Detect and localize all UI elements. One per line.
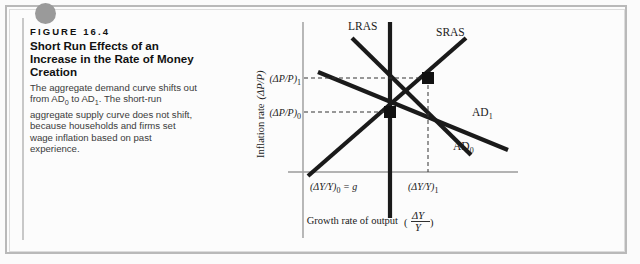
equilibrium-point-short-run	[422, 72, 434, 84]
curve-ad0	[352, 38, 471, 155]
y-tick-0-main: (ΔP/P)	[269, 107, 297, 119]
y-axis-title-text: Inflation rate	[255, 103, 266, 158]
x-tick-1-main: (ΔY/Y)	[408, 181, 435, 193]
y-tick-0-sub: 0	[297, 112, 301, 121]
x-tick-0-suffix: = g	[340, 181, 357, 192]
ad-as-diagram: LRAS SRAS AD1 AD0 (ΔP/P)1 (ΔP/P)0 (ΔY/Y)…	[240, 8, 620, 256]
label-sras: SRAS	[436, 26, 465, 38]
x-axis-title: Growth rate of output	[307, 215, 398, 226]
decorative-circle-icon	[35, 3, 56, 24]
x-axis-title-fraction: ( ΔY Y )	[404, 210, 434, 233]
y-tick-1-sub: 1	[297, 78, 301, 87]
fraction-paren-close: )	[430, 217, 434, 229]
fraction-numerator: ΔY	[411, 210, 425, 221]
description-part-2: to AD	[69, 93, 95, 104]
label-ad0-main: AD	[453, 140, 470, 152]
figure-title: Short Run Effects of an Increase in the …	[30, 39, 198, 79]
x-tick-0-main: (ΔY/Y)	[310, 181, 337, 193]
figure-caption: FIGURE 16.4 Short Run Effects of an Incr…	[30, 26, 198, 155]
fraction-denominator: Y	[415, 222, 422, 233]
figure-description: The aggregate demand curve shifts out fr…	[30, 82, 198, 155]
figure-panel: FIGURE 16.4 Short Run Effects of an Incr…	[0, 0, 640, 264]
y-tick-1-main: (ΔP/P)	[269, 73, 297, 85]
label-ad0: AD0	[453, 140, 474, 155]
x-tick-label-1: (ΔY/Y)1	[408, 181, 438, 195]
equilibrium-point-initial	[384, 106, 396, 118]
y-axis-title: Inflation rate(ΔP/P)	[255, 70, 267, 158]
y-axis-title-paren: (ΔP/P)	[255, 70, 267, 99]
diagram-canvas: LRAS SRAS AD1 AD0 (ΔP/P)1 (ΔP/P)0 (ΔY/Y)…	[240, 8, 620, 256]
x-tick-1-sub: 1	[434, 186, 438, 195]
label-ad0-sub: 0	[470, 146, 474, 155]
y-tick-label-1: (ΔP/P)1	[269, 73, 301, 87]
figure-number: FIGURE 16.4	[30, 26, 198, 37]
y-tick-label-0: (ΔP/P)0	[269, 107, 301, 121]
label-ad1-main: AD	[472, 106, 489, 118]
fraction-paren-open: (	[404, 217, 408, 229]
label-lras: LRAS	[348, 20, 377, 32]
x-tick-label-0: (ΔY/Y)0 = g	[310, 181, 357, 195]
label-ad1: AD1	[472, 106, 493, 121]
label-ad1-sub: 1	[489, 112, 493, 121]
caption-divider-rule	[22, 18, 24, 240]
